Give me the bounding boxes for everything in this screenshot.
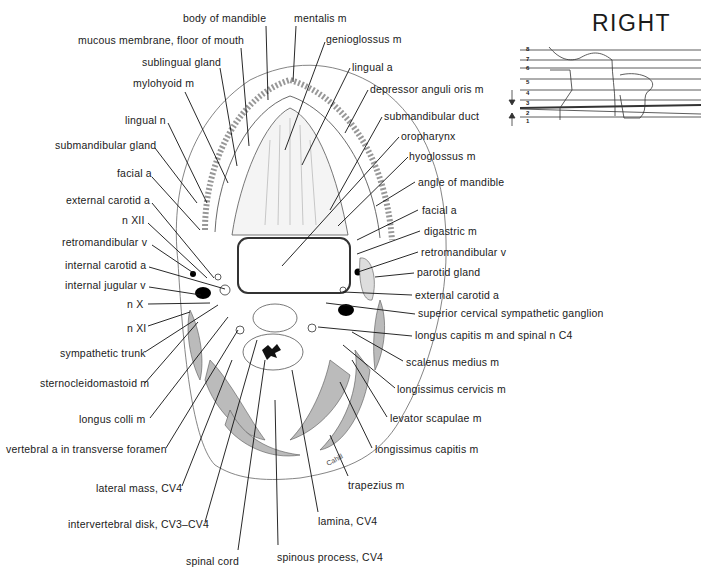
label-facial-a-right: facial a xyxy=(422,204,457,216)
label-mentalis-m: mentalis m xyxy=(294,12,347,24)
label-vertebral-a: vertebral a in transverse foramen xyxy=(6,443,167,455)
label-external-carotid-a-right: external carotid a xyxy=(415,289,499,301)
level-diagram xyxy=(509,47,701,126)
level-3: 3 xyxy=(526,100,529,106)
label-sternocleidomastoid-m: sternocleidomastoid m xyxy=(40,377,149,389)
level-2: 2 xyxy=(526,110,529,116)
label-sublingual-gland: sublingual gland xyxy=(142,56,221,68)
label-internal-carotid-a: internal carotid a xyxy=(65,259,146,271)
label-trapezius-m: trapezius m xyxy=(348,479,404,491)
level-6: 6 xyxy=(526,65,529,71)
level-1: 1 xyxy=(526,118,529,124)
label-longissimus-capitis-m: longissimus capitis m xyxy=(375,443,478,455)
signature: Cahill xyxy=(325,452,344,467)
label-n-x: n X xyxy=(127,298,143,310)
level-8: 8 xyxy=(526,46,529,52)
label-sympathetic-trunk: sympathetic trunk xyxy=(60,347,146,359)
label-intervertebral-disk: intervertebral disk, CV3–CV4 xyxy=(68,518,209,530)
label-levator-scapulae-m: levator scapulae m xyxy=(390,412,482,424)
orientation-label: RIGHT xyxy=(592,10,671,37)
label-retromandibular-v-left: retromandibular v xyxy=(62,236,147,248)
label-spinal-cord: spinal cord xyxy=(186,555,239,567)
label-longissimus-cervicis-m: longissimus cervicis m xyxy=(397,383,506,395)
label-submandibular-duct: submandibular duct xyxy=(384,110,479,122)
label-n-xi: n XI xyxy=(127,322,146,334)
anatomy-figure: Cahill xyxy=(0,0,701,574)
label-external-carotid-a-left: external carotid a xyxy=(66,194,150,206)
label-superior-cervical-sympathetic-ganglion: superior cervical sympathetic ganglion xyxy=(418,307,604,319)
label-genioglossus-m: genioglossus m xyxy=(326,33,402,45)
label-retromandibular-v-right: retromandibular v xyxy=(421,246,506,258)
label-longus-colli-m: longus colli m xyxy=(79,413,145,425)
level-4: 4 xyxy=(526,90,529,96)
label-oropharynx: oropharynx xyxy=(401,130,456,142)
label-mucous-membrane: mucous membrane, floor of mouth xyxy=(78,34,244,46)
label-facial-a-left: facial a xyxy=(117,167,152,179)
label-lingual-n: lingual n xyxy=(125,114,166,126)
label-lateral-mass: lateral mass, CV4 xyxy=(96,482,182,494)
label-n-xii: n XII xyxy=(122,214,145,226)
label-angle-of-mandible: angle of mandible xyxy=(418,176,504,188)
level-7: 7 xyxy=(526,56,529,62)
label-digastric-m: digastric m xyxy=(424,225,477,237)
label-spinous-process-cv4: spinous process, CV4 xyxy=(277,551,383,563)
label-lingual-a: lingual a xyxy=(352,61,393,73)
label-longus-capitis-m: longus capitis m and spinal n C4 xyxy=(415,329,573,341)
label-scalenus-medius-m: scalenus medius m xyxy=(406,356,499,368)
level-5: 5 xyxy=(526,79,529,85)
label-lamina-cv4: lamina, CV4 xyxy=(318,515,377,527)
label-mylohyoid-m: mylohyoid m xyxy=(133,77,194,89)
label-internal-jugular-v: internal jugular v xyxy=(65,279,146,291)
label-hyoglossus-m: hyoglossus m xyxy=(409,150,476,162)
label-parotid-gland: parotid gland xyxy=(417,266,480,278)
label-body-of-mandible: body of mandible xyxy=(183,12,266,24)
label-depressor-anguli-oris-m: depressor anguli oris m xyxy=(370,83,484,95)
label-submandibular-gland: submandibular gland xyxy=(55,139,156,151)
